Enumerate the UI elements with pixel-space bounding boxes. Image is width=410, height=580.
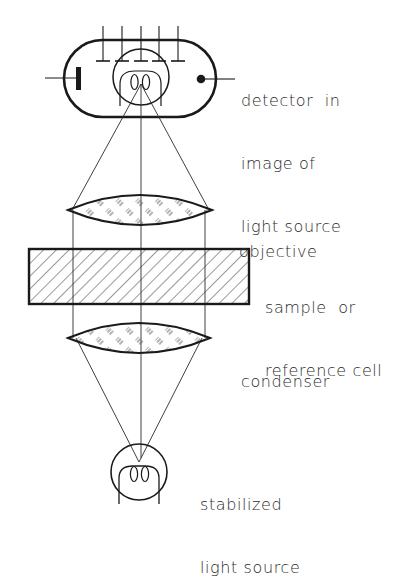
sample-cell (29, 249, 249, 304)
grid-leads (103, 26, 178, 61)
sample-label-line-1: sample or (265, 297, 382, 318)
anode-dot (197, 75, 206, 84)
detector-label-line-2: image of (241, 153, 341, 174)
cathode-plate (76, 67, 81, 90)
objective-lens (68, 195, 212, 225)
detector (45, 26, 235, 117)
condenser-label-line-1: condenser (241, 371, 330, 392)
light-source-label-line-1: stabilized (200, 494, 300, 515)
detector-label-line-1: detector in (241, 90, 341, 111)
light-source-bulb (111, 444, 167, 504)
condenser-lens (68, 323, 210, 353)
condenser-label: condenser (241, 329, 330, 413)
light-source-label: stabilized light source (200, 452, 300, 580)
light-source-label-line-2: light source (200, 557, 300, 578)
